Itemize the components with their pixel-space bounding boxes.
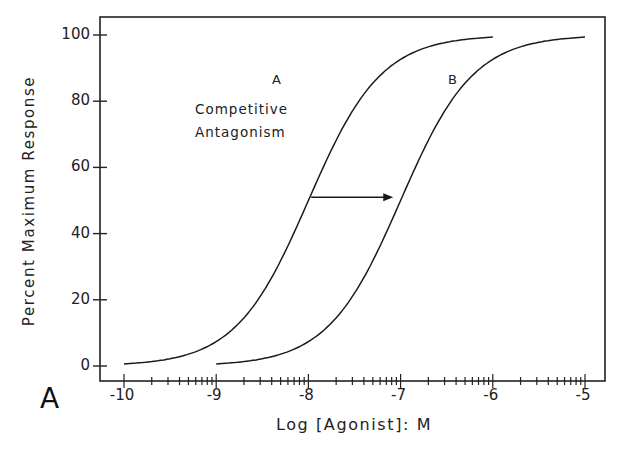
annotation-line-1: Competitive bbox=[195, 98, 288, 121]
x-tick-label: -8 bbox=[299, 386, 314, 404]
y-tick-label: 80 bbox=[50, 91, 90, 109]
y-tick-label: 0 bbox=[50, 356, 90, 374]
x-tick-label: -6 bbox=[483, 386, 498, 404]
x-axis-label: Log [Agonist]: M bbox=[276, 415, 432, 434]
plot-frame bbox=[100, 17, 605, 381]
annotation-competitive-antagonism: Competitive Antagonism bbox=[195, 98, 288, 144]
curve-b-label: B bbox=[448, 72, 457, 87]
x-tick-label: -7 bbox=[391, 386, 406, 404]
y-tick-label: 100 bbox=[50, 25, 90, 43]
x-tick-label: -10 bbox=[110, 386, 135, 404]
panel-label: A bbox=[40, 382, 59, 415]
y-tick-label: 40 bbox=[50, 224, 90, 242]
curve-a-label: A bbox=[272, 72, 281, 87]
annotation-line-2: Antagonism bbox=[195, 121, 288, 144]
x-tick-label: -9 bbox=[207, 386, 222, 404]
dose-response-chart bbox=[0, 0, 622, 451]
x-tick-label: -5 bbox=[576, 386, 591, 404]
y-tick-label: 20 bbox=[50, 290, 90, 308]
curve-a bbox=[124, 37, 493, 364]
y-axis-label: Percent Maximum Response bbox=[20, 76, 38, 326]
y-tick-label: 60 bbox=[50, 157, 90, 175]
shift-arrow bbox=[311, 193, 393, 201]
